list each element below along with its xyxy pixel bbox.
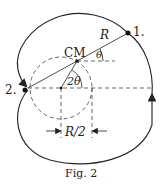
two-theta-label: 2θ (66, 75, 81, 88)
figure-caption: Fig. 2 (65, 167, 97, 180)
radius-label: R (99, 28, 109, 42)
circle-center (60, 87, 63, 90)
point-2 (23, 88, 28, 93)
half-radius-label: R/2 (64, 125, 86, 139)
point1-label: 1. (133, 25, 144, 39)
point2-label: 2. (5, 83, 16, 97)
point-1 (126, 31, 131, 36)
trajectory-diagram: 1. 2. CM R θ 2θ R/2 Fig. 2 (0, 0, 162, 184)
cm-label: CM (64, 46, 85, 60)
theta-label: θ (96, 49, 102, 60)
